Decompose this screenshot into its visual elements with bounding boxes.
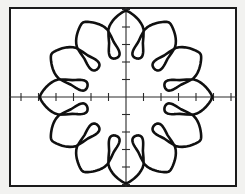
- axes-group: [9, 7, 237, 187]
- polar-graph-plot: [9, 7, 237, 187]
- graph-canvas: [9, 7, 237, 187]
- calculator-screenshot: [0, 0, 245, 194]
